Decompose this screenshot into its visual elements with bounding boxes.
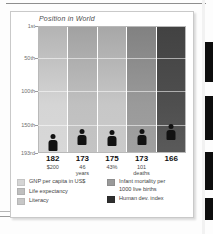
rank-sublabel: years [68, 170, 98, 176]
legend-label: Human dev. index [119, 195, 164, 203]
rank-value: 173 [127, 155, 157, 164]
legend-swatch [17, 179, 25, 186]
bar-column[interactable] [98, 26, 128, 153]
rank-value: 175 [97, 155, 127, 164]
legend-column-right: Infant mortality per 1000 live birthsHum… [101, 178, 191, 214]
y-axis-tick-mark [35, 153, 38, 154]
value-label-group: 182$20017346years17543%173101deaths166 [38, 155, 186, 176]
legend-label: GNP per capita in US$ [29, 178, 85, 186]
adjacent-content-block [205, 198, 213, 220]
legend-item[interactable]: Human dev. index [107, 195, 191, 203]
legend-item[interactable]: Infant mortality per 1000 live births [107, 178, 191, 193]
value-label: 17543% [97, 155, 127, 176]
document-page: Position in World 1st50th100th150th193rd… [0, 0, 213, 234]
bar-column[interactable] [157, 26, 186, 153]
legend-label: Life expectancy [29, 188, 68, 196]
bar-column[interactable] [127, 26, 157, 153]
value-label: 17346years [68, 155, 98, 176]
y-axis-tick-label: 193rd [21, 150, 35, 156]
legend-item[interactable]: Literacy [17, 197, 101, 205]
legend-swatch [107, 179, 115, 186]
value-label: 166 [156, 155, 186, 176]
bar-group [38, 26, 186, 153]
y-axis-tick-label: 50th [24, 55, 35, 61]
legend-item[interactable]: GNP per capita in US$ [17, 178, 101, 186]
page-rule-top [6, 3, 206, 4]
rank-sublabel: 43% [97, 164, 127, 170]
y-axis: 1st50th100th150th193rd [11, 26, 38, 153]
rank-value: 173 [68, 155, 98, 164]
value-label: 173101deaths [127, 155, 157, 176]
chart-legend: GNP per capita in US$Life expectancyLite… [15, 178, 191, 214]
legend-swatch [17, 198, 25, 205]
bar-column[interactable] [68, 26, 98, 153]
legend-item[interactable]: Life expectancy [17, 188, 101, 196]
legend-label: Literacy [29, 197, 49, 205]
y-axis-tick-label: 150th [21, 122, 35, 128]
legend-swatch [17, 188, 25, 195]
legend-swatch [107, 196, 115, 203]
adjacent-content-block [205, 96, 213, 140]
page-rule-bottom-left-secondary [0, 211, 10, 212]
adjacent-content-block [205, 42, 213, 82]
rank-sublabel: deaths [127, 170, 157, 176]
rank-sublabel: $200 [38, 164, 68, 170]
y-axis-tick-label: 100th [21, 88, 35, 94]
bar-column[interactable] [38, 26, 68, 153]
legend-label: Infant mortality per 1000 live births [119, 178, 165, 193]
rank-value: 166 [156, 155, 186, 164]
chart-title: Position in World [39, 15, 95, 22]
legend-column-left: GNP per capita in US$Life expectancyLite… [15, 178, 101, 214]
rank-value: 182 [38, 155, 68, 164]
y-axis-tick-label: 1st [28, 23, 35, 29]
chart-figure: Position in World 1st50th100th150th193rd… [10, 11, 194, 218]
adjacent-content-block [205, 152, 213, 190]
value-label: 182$200 [38, 155, 68, 176]
plot-area [38, 26, 186, 153]
